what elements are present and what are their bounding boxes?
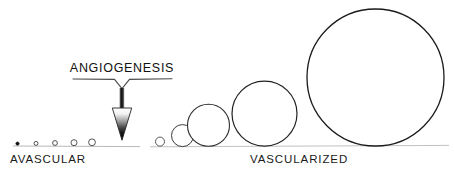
- callout-bracket: [73, 79, 172, 89]
- vascularized-nodule: [188, 104, 230, 146]
- arrow-head-icon: [112, 108, 131, 140]
- arrow-shaft: [120, 88, 125, 110]
- vascularized-label: VASCULARIZED: [250, 153, 348, 165]
- avascular-nodule: [16, 142, 19, 145]
- diagram-canvas: ANGIOGENESIS AVASCULAR VASCULARIZED: [0, 0, 454, 179]
- angiogenesis-diagram: ANGIOGENESIS AVASCULAR VASCULARIZED: [0, 0, 454, 179]
- avascular-label: AVASCULAR: [10, 153, 86, 165]
- angiogenesis-label: ANGIOGENESIS: [70, 61, 174, 75]
- vascularized-nodule: [307, 9, 444, 146]
- avascular-nodule: [34, 141, 38, 145]
- angiogenesis-arrow-group: [73, 79, 172, 140]
- vascularized-nodule: [156, 137, 165, 146]
- avascular-nodule-group: [16, 139, 96, 146]
- vascularized-nodule: [232, 81, 297, 146]
- vascularized-nodule-group: [156, 9, 445, 147]
- avascular-nodule: [53, 141, 58, 146]
- baseline-left: [13, 146, 140, 147]
- avascular-nodule: [89, 139, 96, 146]
- avascular-nodule: [71, 140, 77, 146]
- baseline-right: [150, 145, 449, 146]
